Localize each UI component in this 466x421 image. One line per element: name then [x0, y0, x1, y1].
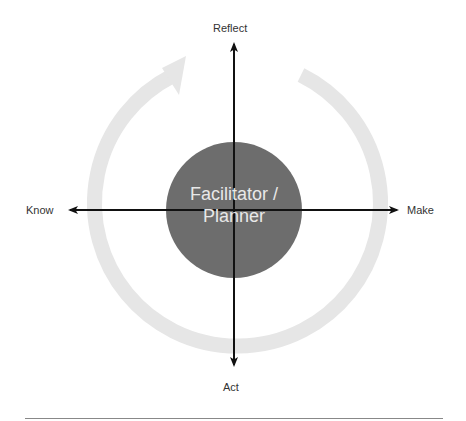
center-label-line2: Planner	[166, 205, 302, 227]
label-act: Act	[223, 381, 239, 393]
label-reflect: Reflect	[213, 22, 247, 34]
center-label: Facilitator / Planner	[166, 183, 302, 227]
label-make: Make	[407, 204, 434, 216]
center-label-line1: Facilitator /	[166, 183, 302, 205]
label-know: Know	[26, 204, 54, 216]
